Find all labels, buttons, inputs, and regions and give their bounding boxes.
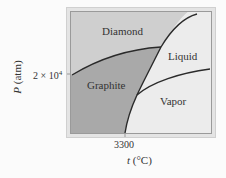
y-tick-base: 2 × 10 [33, 70, 59, 81]
label-diamond: Diamond [102, 26, 143, 37]
label-liquid: Liquid [168, 51, 197, 62]
y-axis-variable: P [11, 87, 23, 94]
y-axis-unit: (atm) [11, 60, 23, 87]
y-tick-exponent: 4 [59, 69, 63, 77]
y-tick-label: 2 × 104 [33, 70, 62, 81]
x-tick-label: 3300 [114, 140, 134, 150]
y-axis-label: P (atm) [12, 60, 23, 93]
x-axis-label: t (°C) [127, 155, 152, 166]
x-axis-unit: (°C) [130, 154, 152, 166]
label-graphite: Graphite [87, 80, 125, 91]
phase-diagram: Diamond Liquid Graphite Vapor 2 × 104 33… [0, 0, 226, 178]
label-vapor: Vapor [160, 96, 186, 107]
